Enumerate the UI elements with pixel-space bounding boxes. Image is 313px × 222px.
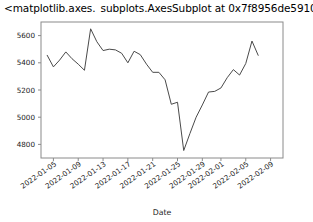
y-tick-label: 4800 [17,140,36,149]
y-tick-label: 5600 [17,31,36,40]
axes-frame [41,22,283,158]
plot-canvas: 48005000520054005600 2022-01-052022-01-0… [0,14,313,222]
y-tick-label: 5400 [17,58,36,67]
x-axis-label: Date [153,208,172,217]
x-tick-labels: 2022-01-052022-01-092022-01-132022-01-17… [19,159,276,191]
y-tick-label: 5000 [17,113,36,122]
y-tick-label: 5200 [17,86,36,95]
matplotlib-figure: 48005000520054005600 2022-01-052022-01-0… [0,14,313,222]
y-tick-labels: 48005000520054005600 [17,31,36,149]
